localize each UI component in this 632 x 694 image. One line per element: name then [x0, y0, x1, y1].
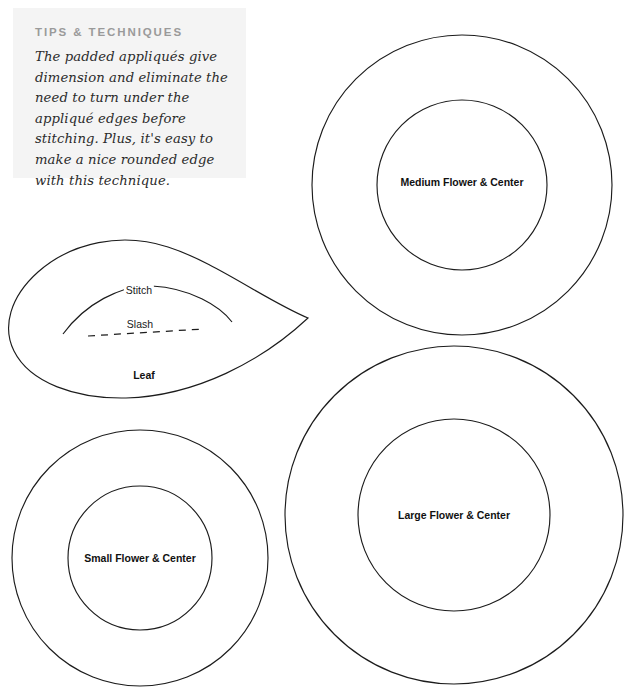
leaf-label: Leaf: [133, 369, 155, 381]
leaf-slash-line: [88, 329, 203, 336]
pattern-outlines-layer: [0, 0, 632, 694]
medium-flower-label: Medium Flower & Center: [400, 176, 523, 188]
leaf-slash-label: Slash: [125, 318, 155, 330]
large-flower-label: Large Flower & Center: [398, 509, 510, 521]
leaf-stitch-label: Stitch: [124, 284, 154, 296]
pattern-sheet: TIPS & TECHNIQUES The padded appliqués g…: [0, 0, 632, 694]
leaf-outline: [9, 240, 308, 398]
small-flower-label: Small Flower & Center: [84, 552, 195, 564]
